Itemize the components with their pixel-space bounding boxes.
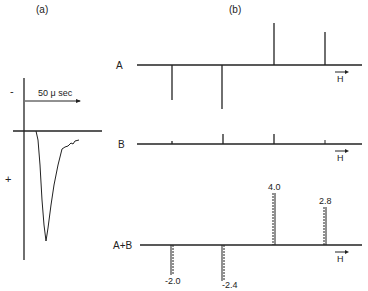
row-ab-h-label: H bbox=[337, 254, 344, 264]
bar-value-label: 4.0 bbox=[268, 182, 281, 192]
pulse-waveform bbox=[36, 131, 79, 241]
panel-a-plot bbox=[13, 78, 102, 260]
arrow-head-icon bbox=[345, 250, 349, 254]
bar-value-label: -2.4 bbox=[222, 280, 238, 290]
row-b-plot bbox=[137, 134, 362, 153]
plus-sign: + bbox=[5, 174, 11, 184]
row-b-h-label: H bbox=[337, 153, 344, 163]
row-a-plot bbox=[137, 23, 362, 109]
row-a-h-label: H bbox=[337, 74, 344, 84]
bar-value-label: -2.0 bbox=[165, 276, 181, 286]
minus-sign: - bbox=[10, 86, 14, 96]
panel-a-label: (a) bbox=[36, 5, 48, 15]
row-b-label: B bbox=[118, 140, 125, 150]
row-ab-bar bbox=[324, 207, 326, 245]
panel-b-label: (b) bbox=[229, 5, 241, 15]
arrow-head-icon bbox=[345, 70, 349, 74]
arrow-head-icon bbox=[76, 99, 81, 103]
time-scale-label: 50 μ sec bbox=[38, 88, 72, 98]
row-ab-label: A+B bbox=[113, 241, 132, 251]
arrow-head-icon bbox=[345, 149, 349, 153]
row-ab-bar bbox=[273, 193, 275, 245]
bar-value-label: 2.8 bbox=[319, 196, 332, 206]
row-ab-plot bbox=[140, 193, 362, 281]
row-a-label: A bbox=[116, 61, 123, 71]
row-ab-bar bbox=[171, 245, 173, 275]
figure-canvas bbox=[0, 0, 368, 291]
row-ab-bar bbox=[222, 245, 224, 281]
